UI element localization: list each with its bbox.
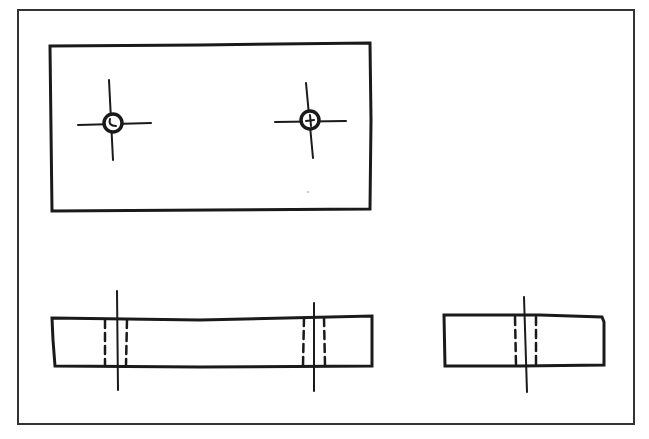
top-view [50,43,371,211]
hole-right-top-view [275,83,346,158]
hidden-line [324,318,325,365]
hidden-line [515,317,516,365]
centerline [117,291,118,390]
side-view [444,297,604,392]
hole-circle [104,114,122,132]
hole-inner-mark [306,120,314,121]
stray-dot [307,191,309,193]
centerline [524,297,527,392]
hidden-hole-side-view [515,297,536,392]
hole-left-top-view [78,80,151,160]
top-view-outline [50,43,371,211]
front-view [52,291,372,391]
hidden-hole-left-front-view [105,291,127,390]
orthographic-drawing [0,0,649,439]
hidden-line [126,320,127,365]
hidden-line [303,318,304,365]
